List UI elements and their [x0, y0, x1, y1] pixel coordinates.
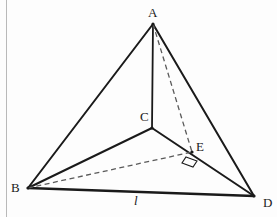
- edge-AD: [153, 24, 254, 196]
- edge-AC: [152, 24, 153, 128]
- edge-BD: [28, 188, 254, 196]
- vertex-label-E: E: [196, 140, 204, 153]
- vertex-point-C: [150, 126, 153, 129]
- vertex-point-B: [26, 186, 29, 189]
- segment-label-l: l: [134, 194, 138, 207]
- vertex-label-B: B: [11, 181, 20, 194]
- edge-BE-dashed: [28, 152, 192, 188]
- vertex-point-E: [190, 150, 193, 153]
- vertex-point-A: [151, 22, 154, 25]
- edge-BC: [28, 128, 152, 188]
- tetrahedron-drawing: [0, 0, 277, 217]
- vertex-label-D: D: [263, 196, 272, 209]
- vertex-label-A: A: [148, 6, 157, 19]
- right-angle-icon: [182, 157, 197, 167]
- edge-AB: [28, 24, 153, 188]
- vertex-label-C: C: [140, 110, 149, 123]
- geometry-figure: A B C D E l: [0, 0, 277, 217]
- vertex-point-D: [252, 194, 255, 197]
